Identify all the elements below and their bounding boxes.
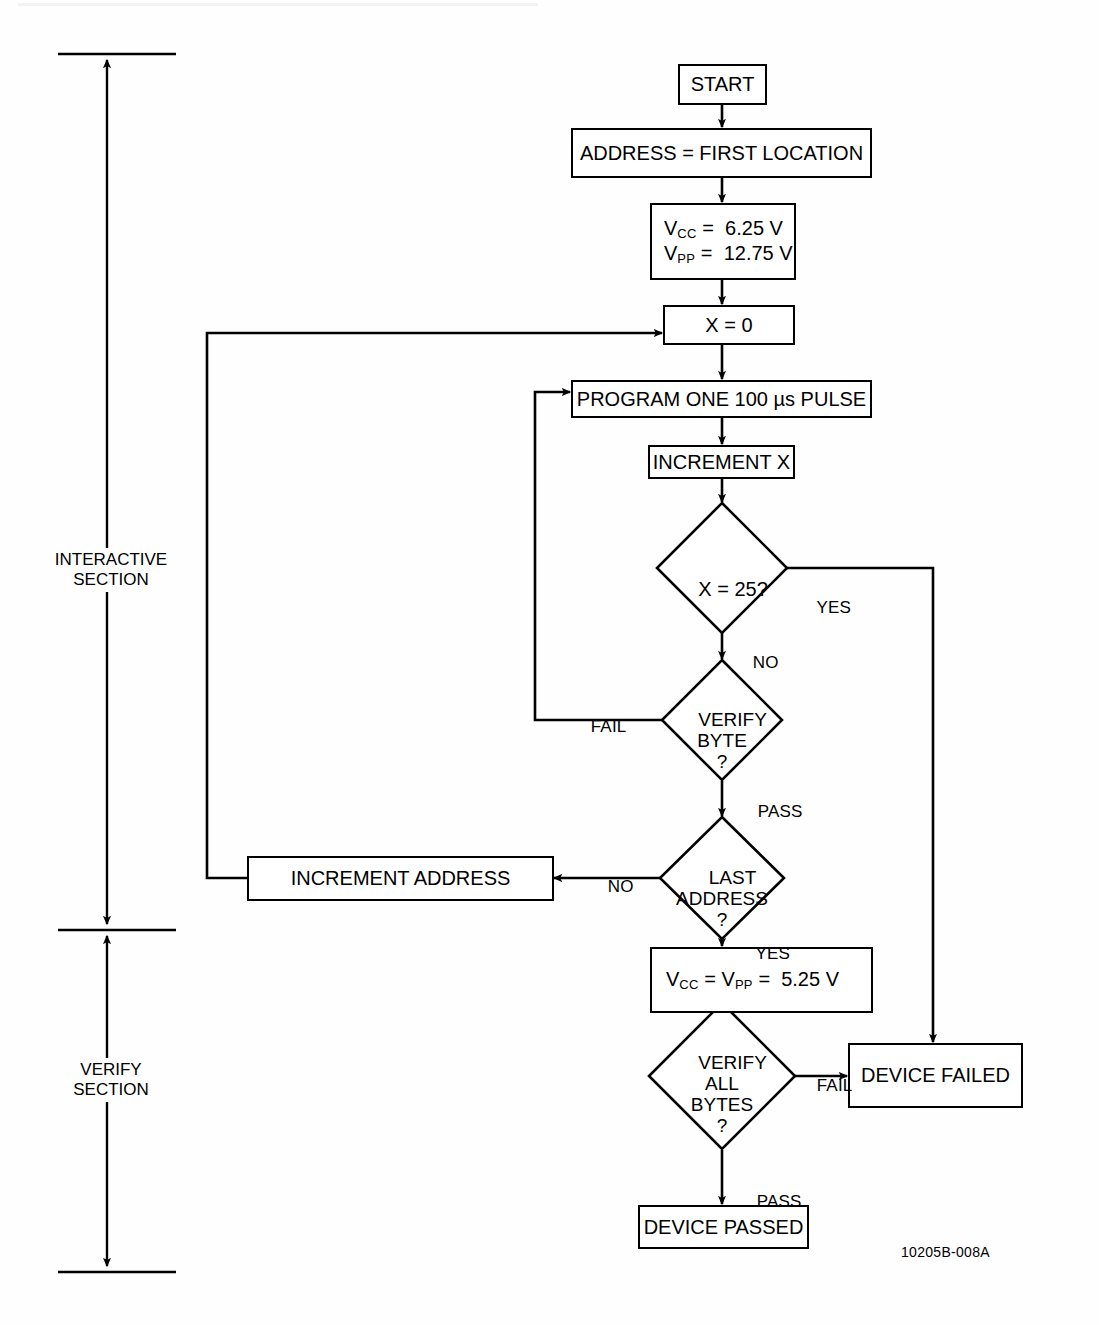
last-address-no-text: NO [608,877,634,896]
figure-id-text: 10205B-008A [901,1244,990,1260]
verify-section-text: VERIFY SECTION [73,1060,149,1099]
verify-all-pass-text: PASS [757,1192,802,1211]
edge-label-last-address-no: NO [588,857,634,917]
x25-no-text: NO [753,653,779,672]
figure-id-code: 10205B-008A [901,1244,990,1260]
verify-byte-text: VERIFY BYTE ? [697,709,767,772]
edge-label-x25-yes: YES [797,578,851,638]
edge-label-verify-all-fail: FAIL [797,1056,852,1116]
verify-all-fail-text: FAIL [817,1076,853,1095]
edge-label-verify-byte-fail: FAIL [571,697,626,757]
section-label-verify: VERIFY SECTION [22,1058,200,1102]
edge-label-last-address-yes: YES [736,924,790,984]
node-verify-byte-label: VERIFY BYTE ? [662,689,782,793]
interactive-section-text: INTERACTIVE SECTION [55,550,167,589]
edge-label-x25-no: NO [733,633,779,693]
section-label-interactive: INTERACTIVE SECTION [22,548,200,592]
flowchart-figure: START ADDRESS = FIRST LOCATION VCC = 6.2… [0,0,1099,1325]
node-verify-all-bytes-label: VERIFY ALL BYTES ? [657,1032,787,1157]
verify-byte-fail-text: FAIL [591,717,627,736]
x-equals-25-text: X = 25? [698,578,768,600]
verify-byte-pass-text: PASS [758,802,803,821]
node-x-equals-25-label: X = 25? [657,556,787,622]
last-address-text: LAST ADDRESS ? [676,867,768,930]
edge-label-verify-byte-pass: PASS [738,782,803,842]
edge-label-verify-all-pass: PASS [737,1172,802,1232]
x25-yes-text: YES [816,598,851,617]
last-address-yes-text: YES [755,944,790,963]
verify-all-bytes-text: VERIFY ALL BYTES ? [691,1052,767,1136]
section-bracket-layer [0,0,1099,1325]
